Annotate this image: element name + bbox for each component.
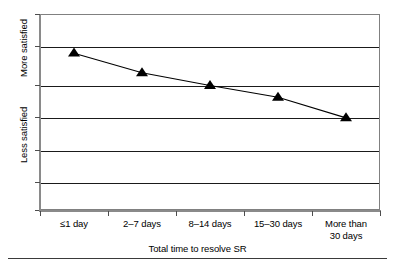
- x-tick-label-4: More than 30 days: [312, 218, 380, 241]
- y-axis-tick: [35, 150, 40, 151]
- x-axis-title: Total time to resolve SR: [0, 243, 395, 254]
- x-axis-tick: [40, 211, 41, 216]
- x-tick-label-2: 8–14 days: [176, 218, 244, 230]
- y-axis-tick: [35, 117, 40, 118]
- gridline-5: [41, 183, 379, 184]
- x-axis-tick: [244, 211, 245, 216]
- y-axis-tick: [35, 182, 40, 183]
- bottom-rule: [8, 258, 387, 259]
- y-axis-tick: [35, 85, 40, 86]
- x-axis-tick: [312, 211, 313, 216]
- x-axis-tick: [176, 211, 177, 216]
- y-axis-tick: [35, 46, 40, 47]
- y-axis-tick: [35, 14, 40, 15]
- y-axis-label-less-satisfied: Less satisfied: [18, 65, 29, 205]
- x-axis-tick: [108, 211, 109, 216]
- x-tick-label-0: ≤1 day: [40, 218, 108, 230]
- plot-area: [40, 14, 380, 210]
- chart-figure: More satisfied Less satisfied ≤1 day 2–7…: [0, 0, 395, 268]
- gridline-4: [41, 151, 379, 152]
- gridline-1: [41, 47, 379, 48]
- gridline-2: [41, 86, 379, 87]
- gridline-3: [41, 118, 379, 119]
- x-axis-spine: [39, 210, 381, 212]
- x-axis-tick: [380, 211, 381, 216]
- x-tick-label-3: 15–30 days: [244, 218, 312, 230]
- x-tick-label-1: 2–7 days: [108, 218, 176, 230]
